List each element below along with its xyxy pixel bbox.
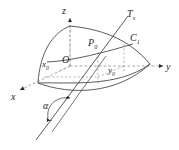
axis-label-y: y: [166, 62, 170, 72]
coordinate-label-y0-subscript: 0: [112, 71, 115, 77]
point-label-c1: C1: [130, 33, 140, 45]
axis-label-x: x: [11, 92, 15, 102]
chord-line: [52, 56, 106, 132]
axis-group: [20, 18, 163, 90]
coordinate-label-x0: x0: [42, 60, 49, 71]
tangent-label-base: T: [127, 8, 133, 19]
angle-label-alpha: α: [43, 101, 48, 111]
coordinate-label-y0: y0: [108, 66, 115, 77]
geometry-figure: z y x Ts C1 P0 O x0 y0 α: [0, 0, 179, 150]
point-label-c1-subscript: 1: [137, 38, 140, 45]
coordinate-label-x0-subscript: 0: [46, 65, 49, 71]
point-label-origin: O: [62, 55, 69, 65]
point-label-c1-base: C: [130, 32, 137, 43]
point-label-p0-subscript: 0: [94, 43, 97, 50]
alpha-arc: [48, 98, 70, 118]
tangent-line: [36, 16, 128, 140]
figure-canvas: [0, 0, 179, 150]
point-label-p0: P0: [88, 38, 97, 50]
tangent-label: Ts: [127, 9, 135, 21]
axis-label-z: z: [62, 6, 66, 16]
patch-front-curve: [38, 64, 150, 90]
tangent-label-subscript: s: [133, 14, 135, 21]
